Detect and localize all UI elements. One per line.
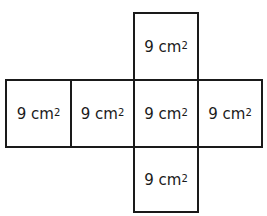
face-left-2: 9 cm2	[70, 79, 135, 148]
face-label: 9 cm	[144, 105, 181, 123]
face-label: 9 cm	[17, 105, 54, 123]
face-right: 9 cm2	[197, 79, 263, 148]
face-label: 9 cm	[208, 105, 245, 123]
face-label: 9 cm	[144, 171, 181, 189]
face-center: 9 cm2	[133, 79, 199, 148]
face-label: 9 cm	[144, 38, 181, 56]
face-bottom: 9 cm2	[133, 146, 199, 213]
face-top: 9 cm2	[133, 12, 199, 81]
face-left-1: 9 cm2	[5, 79, 72, 148]
face-label: 9 cm	[81, 105, 118, 123]
cube-net: 9 cm2 9 cm2 9 cm2 9 cm2 9 cm2 9 cm2	[0, 0, 267, 216]
